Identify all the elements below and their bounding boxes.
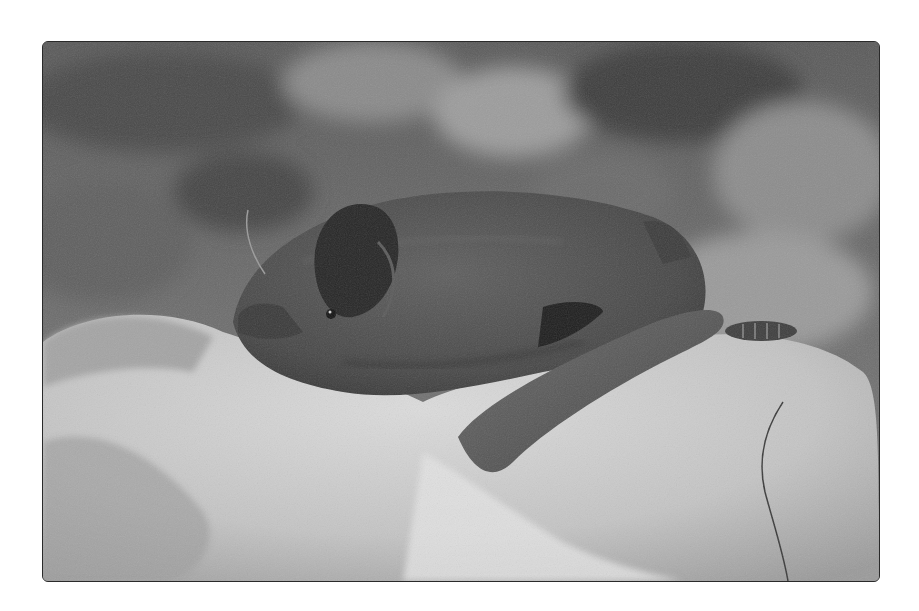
- photo-canvas: [43, 42, 879, 581]
- film-grain: [43, 42, 879, 581]
- bat-photograph: [42, 41, 880, 582]
